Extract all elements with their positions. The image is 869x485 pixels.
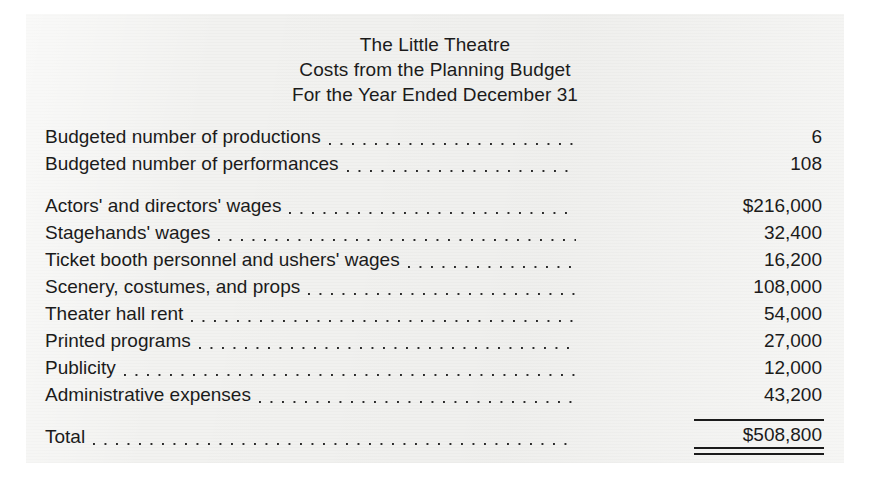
row-value: 108,000 [694, 273, 824, 300]
row-value: 108 [694, 150, 824, 177]
statement-row: Actors' and directors' wages $216,000 [45, 192, 824, 219]
dot-leader [347, 157, 576, 177]
dot-leader [93, 430, 576, 450]
dot-leader [124, 361, 576, 381]
row-label: Theater hall rent [45, 300, 191, 327]
statement-row: Budgeted number of productions 6 [45, 123, 824, 150]
budget-exhibit-panel: The Little Theatre Costs from the Planni… [26, 14, 844, 463]
row-value: 32,400 [694, 219, 824, 246]
row-label: Total [45, 423, 93, 450]
row-value: $216,000 [694, 192, 824, 219]
statement-row: Scenery, costumes, and props 108,000 [45, 273, 824, 300]
row-label: Publicity [45, 354, 124, 381]
row-label: Actors' and directors' wages [45, 192, 289, 219]
statement-heading: The Little Theatre Costs from the Planni… [26, 14, 844, 107]
row-label: Administrative expenses [45, 381, 259, 408]
row-label: Scenery, costumes, and props [45, 273, 308, 300]
row-label: Printed programs [45, 327, 199, 354]
statement-title-company: The Little Theatre [26, 32, 844, 57]
statement-row: Ticket booth personnel and ushers' wages… [45, 246, 824, 273]
statement-row: Administrative expenses 43,200 [45, 381, 824, 408]
dot-leader [191, 307, 576, 327]
statement-row: Theater hall rent 54,000 [45, 300, 824, 327]
statement-row: Stagehands' wages 32,400 [45, 219, 824, 246]
row-label: Ticket booth personnel and ushers' wages [45, 246, 408, 273]
statement-total-row: Total $508,800 [45, 419, 824, 450]
row-value: 27,000 [694, 327, 824, 354]
statement-title-subject: Costs from the Planning Budget [26, 57, 844, 82]
row-value: 12,000 [694, 354, 824, 381]
row-label: Stagehands' wages [45, 219, 218, 246]
dot-leader [408, 253, 576, 273]
row-value: 43,200 [694, 381, 824, 408]
statement-group-total: Total $508,800 [45, 419, 824, 450]
dot-leader [308, 280, 576, 300]
statement-row: Printed programs 27,000 [45, 327, 824, 354]
row-label: Budgeted number of performances [45, 150, 347, 177]
statement-group-activity-measures: Budgeted number of productions 6 Budgete… [45, 123, 824, 177]
dot-leader [329, 130, 576, 150]
statement-group-cost-line-items: Actors' and directors' wages $216,000 St… [45, 192, 824, 408]
statement-row: Publicity 12,000 [45, 354, 824, 381]
statement-row: Budgeted number of performances 108 [45, 150, 824, 177]
row-value: 6 [694, 123, 824, 150]
row-value: 54,000 [694, 300, 824, 327]
statement-body: Budgeted number of productions 6 Budgete… [26, 123, 844, 450]
dot-leader [199, 334, 576, 354]
dot-leader [289, 199, 576, 219]
row-label: Budgeted number of productions [45, 123, 329, 150]
row-value: $508,800 [694, 419, 824, 450]
statement-title-period: For the Year Ended December 31 [26, 82, 844, 107]
row-value: 16,200 [694, 246, 824, 273]
dot-leader [259, 388, 576, 408]
dot-leader [218, 226, 576, 246]
